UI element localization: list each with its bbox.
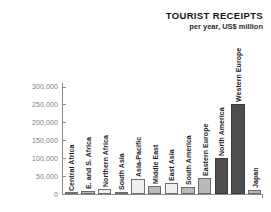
bar-category-label: Asia-Pacific xyxy=(134,137,141,177)
bar-chart: TOURIST RECEIPTS per year, US$ million 3… xyxy=(0,0,271,212)
bar-group[interactable]: Middle East xyxy=(148,83,161,194)
bar-group[interactable]: North America xyxy=(215,83,228,194)
x-axis-end-tick xyxy=(262,194,263,198)
bar[interactable] xyxy=(131,179,144,194)
bar[interactable] xyxy=(98,189,111,194)
bar[interactable] xyxy=(198,178,211,194)
bar[interactable] xyxy=(115,192,128,194)
y-axis-tick-label: 300,000 xyxy=(32,83,58,90)
bar[interactable] xyxy=(248,190,261,194)
bar-group[interactable]: Japan xyxy=(248,83,261,194)
bar-category-label: Middle East xyxy=(151,145,158,184)
x-axis-line xyxy=(62,194,263,195)
bar[interactable] xyxy=(215,158,228,194)
bar-group[interactable]: Eastern Europe xyxy=(198,83,211,194)
bar[interactable] xyxy=(165,183,178,194)
bar-group[interactable]: Western Europe xyxy=(231,83,244,194)
bar[interactable] xyxy=(81,191,94,194)
y-axis-tick-label: 0 xyxy=(54,191,58,198)
bar-group[interactable]: South America xyxy=(181,83,194,194)
chart-title: TOURIST RECEIPTS xyxy=(166,10,263,21)
bar-group[interactable]: South Asia xyxy=(115,83,128,194)
chart-title-block: TOURIST RECEIPTS per year, US$ million xyxy=(166,10,263,32)
bar-category-label: East Asia xyxy=(168,150,175,182)
y-axis-tick-label: 250,000 xyxy=(32,101,58,108)
y-axis-tick-label: 150,000 xyxy=(32,137,58,144)
bar-category-label: Western Europe xyxy=(234,48,241,102)
bar[interactable] xyxy=(148,186,161,194)
bar[interactable] xyxy=(231,104,244,194)
bar[interactable] xyxy=(65,192,78,194)
bar-category-label: Eastern Europe xyxy=(201,123,208,175)
bar-category-label: North America xyxy=(218,108,225,157)
bar-group[interactable]: Asia-Pacific xyxy=(131,83,144,194)
bar-series: Central AfricaE. and S. AfricaNorthern A… xyxy=(63,83,263,194)
y-axis-tick-label: 100,000 xyxy=(32,155,58,162)
y-axis-tick xyxy=(62,194,66,195)
y-axis-tick-label: 50,000 xyxy=(36,173,58,180)
bar-category-label: Central Africa xyxy=(68,144,75,190)
bar-group[interactable]: Central Africa xyxy=(65,83,78,194)
bar-category-label: South Asia xyxy=(118,153,125,190)
chart-subtitle: per year, US$ million xyxy=(166,22,263,32)
bar[interactable] xyxy=(181,187,194,194)
y-axis-tick-label: 200,000 xyxy=(32,119,58,126)
bar-category-label: Japan xyxy=(251,168,258,188)
bar-group[interactable]: Northern Africa xyxy=(98,83,111,194)
bar-category-label: South America xyxy=(184,135,191,185)
bar-group[interactable]: East Asia xyxy=(165,83,178,194)
bar-group[interactable]: E. and S. Africa xyxy=(81,83,94,194)
bar-category-label: E. and S. Africa xyxy=(84,137,91,189)
bar-category-label: Northern Africa xyxy=(101,136,108,188)
